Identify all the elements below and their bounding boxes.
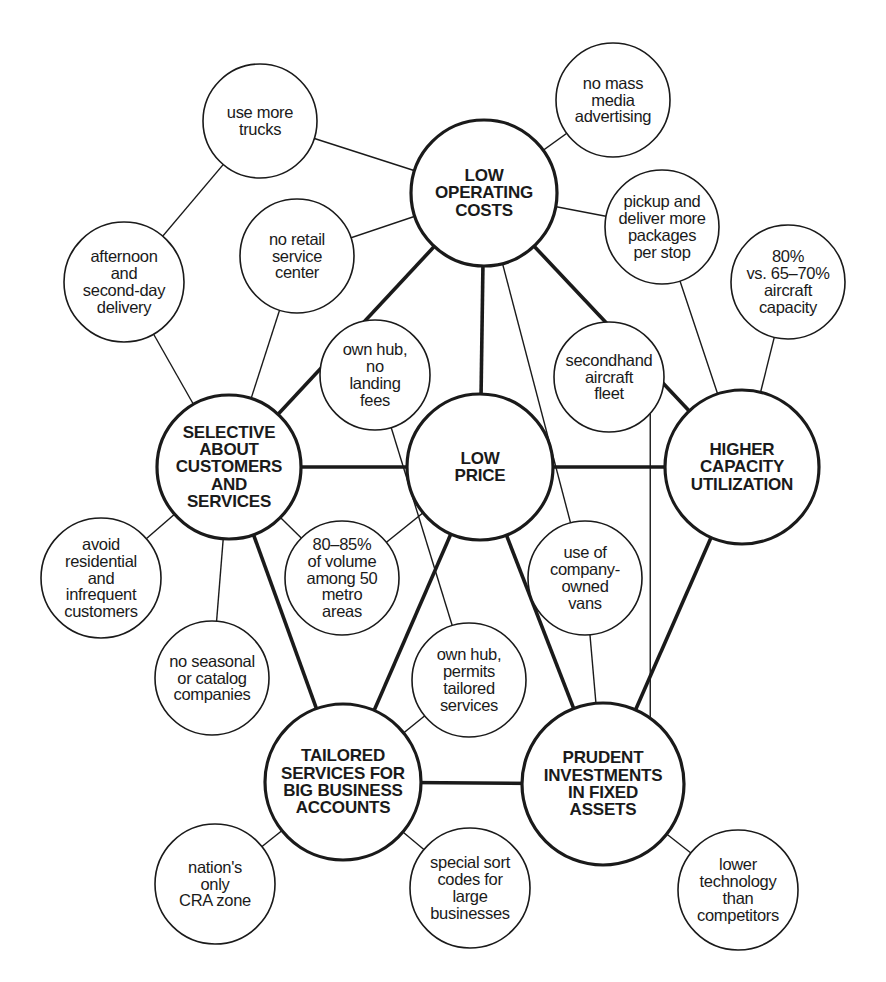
node-label-no-seasonal: no seasonal or catalog companies <box>158 621 266 735</box>
node-label-higher-capacity: HIGHER CAPACITY UTILIZATION <box>668 390 816 544</box>
node-label-aircraft-capacity: 80% vs. 65–70% aircraft capacity <box>734 225 842 339</box>
node-label-low-price: LOW PRICE <box>410 394 550 540</box>
node-label-company-vans: use of company- owned vans <box>531 521 639 635</box>
node-label-special-sort: special sort codes for large businesses <box>413 828 527 948</box>
node-label-avoid-residential: avoid residential and infrequent custome… <box>44 518 158 638</box>
node-label-no-retail: no retail service center <box>243 199 351 313</box>
node-label-volume-metro: 80–85% of volume among 50 metro areas <box>288 521 396 635</box>
node-label-tailored-services: TAILORED SERVICES FOR BIG BUSINESS ACCOU… <box>268 704 418 860</box>
node-label-use-trucks: use more trucks <box>206 64 314 178</box>
node-label-prudent-investments: PRUDENT INVESTMENTS IN FIXED ASSETS <box>525 703 681 865</box>
node-label-own-hub-tailored: own hub, permits tailored services <box>415 623 523 737</box>
node-label-pickup: pickup and deliver more packages per sto… <box>608 170 716 284</box>
node-label-selective: SELECTIVE ABOUT CUSTOMERS AND SERVICES <box>160 395 298 539</box>
node-label-lower-tech: lower technology than competitors <box>681 830 795 950</box>
node-label-secondhand: secondhand aircraft fleet <box>557 322 661 432</box>
node-label-low-operating-costs: LOW OPERATING COSTS <box>414 120 554 266</box>
node-label-afternoon: afternoon and second-day delivery <box>67 222 181 342</box>
node-label-cra-zone: nation's only CRA zone <box>158 824 272 944</box>
node-label-mass-media: no mass media advertising <box>559 43 667 157</box>
